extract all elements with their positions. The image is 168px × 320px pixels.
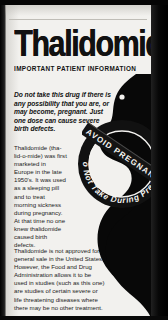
masthead: Thalidomide IMPORTANT PATIENT INFORMATIO…	[14, 24, 146, 71]
leaflet-page: Thalidomide IMPORTANT PATIENT INFORMATIO…	[5, 4, 151, 316]
scan-edge-right	[151, 0, 168, 320]
page-subtitle: IMPORTANT PATIENT INFORMATION	[14, 64, 146, 72]
scanned-leaflet: Thalidomide IMPORTANT PATIENT INFORMATIO…	[0, 0, 168, 320]
page-title: Thalidomide	[14, 24, 143, 62]
body-paragraph-two: Thalidomide is not approved for general …	[14, 247, 106, 312]
scan-edge-bottom	[0, 316, 168, 320]
scan-edge-left	[0, 0, 6, 320]
body-paragraph-one: Thalidomide (tha-lid-o-mide) was first m…	[14, 144, 67, 249]
scan-edge-top	[0, 0, 168, 5]
warning-text: Do not take this drug if there is any po…	[14, 91, 111, 134]
fold-crease	[9, 19, 147, 20]
